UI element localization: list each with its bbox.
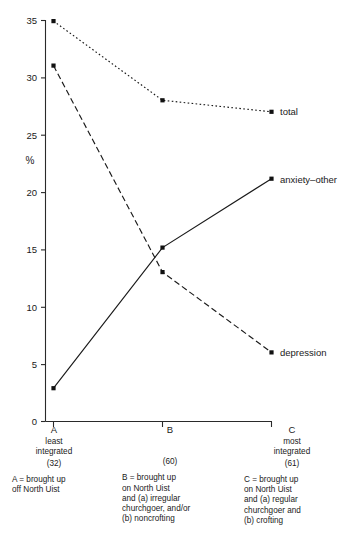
series-depression: [51, 64, 273, 355]
category-letter-b: B: [118, 424, 222, 435]
category-letter-a: A: [8, 424, 100, 435]
series-anxiety-other-point-a: [51, 386, 55, 390]
category-definition-a: A = brought up off North Uist: [8, 475, 100, 496]
series-total-point-c: [269, 110, 273, 114]
series-total: [51, 19, 273, 114]
category-column-c: C most integrated (61) C = brought up on…: [240, 424, 344, 526]
y-tick-label-20: 20: [26, 187, 37, 198]
series-total-point-a: [51, 19, 55, 23]
y-tick-label-35: 35: [26, 15, 37, 26]
series-anxiety-other-point-b: [160, 246, 164, 250]
category-column-a: A least integrated (32) A = brought up o…: [8, 424, 100, 495]
category-definition-b: B = brought up on North Uist and (a) irr…: [118, 473, 222, 524]
series-depression-point-b: [160, 270, 164, 274]
series-anxiety-other-line: [54, 179, 272, 389]
series-label-anxiety-other: anxiety–other: [280, 174, 337, 185]
category-definition-c: C = brought up on North Uist and (a) reg…: [240, 475, 344, 526]
y-tick-label-10: 10: [26, 302, 37, 313]
series-depression-point-a: [51, 64, 55, 68]
category-letter-c: C: [240, 424, 344, 435]
category-descriptor-a: least integrated: [8, 437, 100, 458]
y-axis-ticks: [41, 21, 46, 422]
y-axis-title: %: [26, 155, 35, 166]
category-column-b: B (60) B = brought up on North Uist and …: [118, 424, 222, 525]
series-depression-line: [54, 66, 272, 353]
x-axis-caption-area: A least integrated (32) A = brought up o…: [0, 424, 358, 542]
y-tick-label-15: 15: [26, 244, 37, 255]
y-tick-label-5: 5: [32, 359, 37, 370]
series-anxiety-other: [51, 177, 273, 391]
series-depression-point-c: [269, 350, 273, 354]
category-count-a: (32): [8, 459, 100, 469]
series-total-point-b: [160, 98, 164, 102]
category-descriptor-c: most integrated: [240, 437, 344, 458]
series-label-total: total: [280, 106, 298, 117]
series-label-depression: depression: [280, 347, 326, 358]
category-count-b: (60): [118, 457, 222, 467]
y-tick-label-25: 25: [26, 130, 37, 141]
series-anxiety-other-point-c: [269, 177, 273, 181]
y-tick-label-30: 30: [26, 72, 37, 83]
series-total-line: [54, 21, 272, 112]
category-count-c: (61): [240, 459, 344, 469]
